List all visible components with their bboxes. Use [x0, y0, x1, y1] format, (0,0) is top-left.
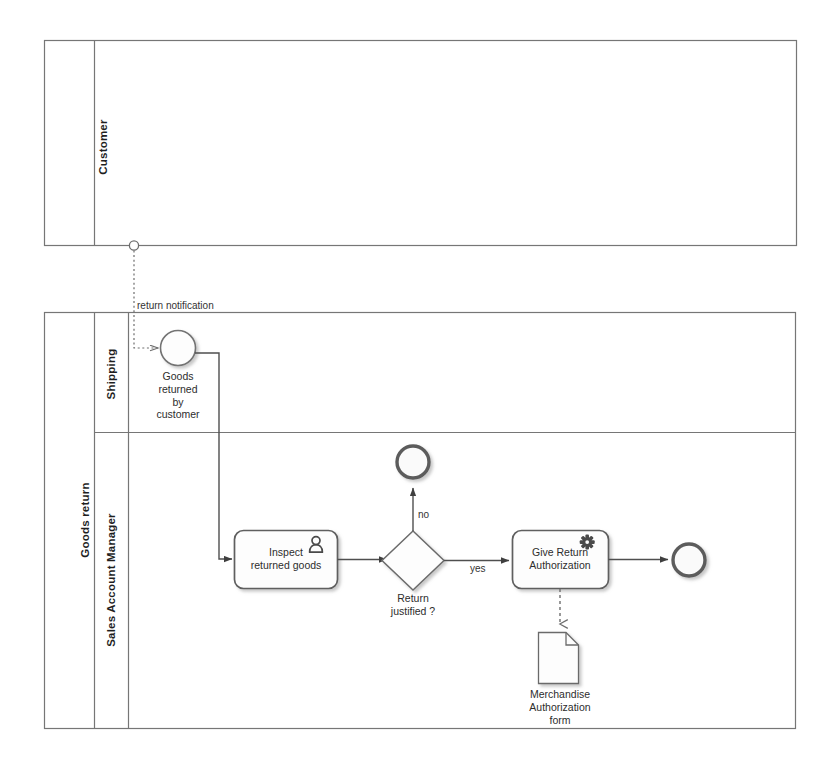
message-flow-label: return notification — [137, 300, 214, 311]
gateway-label-line-2: justified ? — [363, 605, 463, 618]
pool-customer — [45, 41, 797, 246]
lane-label-sales-account-manager: Sales Account Manager — [94, 480, 128, 680]
start-event-goods-returned — [161, 331, 196, 366]
task-inspect-label: Inspect returned goods — [236, 532, 336, 586]
message-flow-origin-marker — [129, 241, 138, 250]
bpmn-diagram-canvas: Customer Goods return Shipping Sales Acc… — [0, 0, 837, 763]
data-object-label: Merchandise Authorization form — [508, 688, 612, 726]
data-object-label-line-1: Merchandise — [508, 688, 612, 701]
start-event-label-line-1: Goods — [128, 370, 228, 383]
data-object-shape — [539, 633, 579, 684]
lane-label-shipping: Shipping — [94, 314, 128, 434]
pool-customer-border — [45, 41, 797, 246]
task-authorization-label-line-2: Authorization — [513, 559, 607, 572]
task-inspect-label-line-1: Inspect — [236, 546, 336, 559]
end-event-no — [397, 446, 429, 478]
pool-label-customer: Customer — [78, 57, 128, 237]
task-authorization-label: Give Return Authorization — [513, 532, 607, 586]
gateway-label-line-1: Return — [363, 592, 463, 605]
start-event-label-line-3: by — [128, 396, 228, 409]
data-object-label-line-3: form — [508, 714, 612, 727]
sequence-flow-label-yes: yes — [470, 563, 486, 574]
end-event-yes-circle — [673, 544, 705, 576]
end-event-no-circle — [397, 446, 429, 478]
task-authorization-label-line-1: Give Return — [513, 546, 607, 559]
start-event-label: Goods returned by customer — [128, 370, 228, 421]
start-event-circle — [161, 331, 196, 366]
task-inspect-label-line-2: returned goods — [236, 559, 336, 572]
start-event-label-line-2: returned — [128, 383, 228, 396]
data-object-label-line-2: Authorization — [508, 701, 612, 714]
sequence-flow-label-no: no — [418, 509, 429, 520]
end-event-yes — [673, 544, 705, 576]
start-event-label-line-4: customer — [128, 408, 228, 421]
gateway-label: Return justified ? — [363, 592, 463, 618]
data-object-merchandise-form — [539, 633, 579, 684]
